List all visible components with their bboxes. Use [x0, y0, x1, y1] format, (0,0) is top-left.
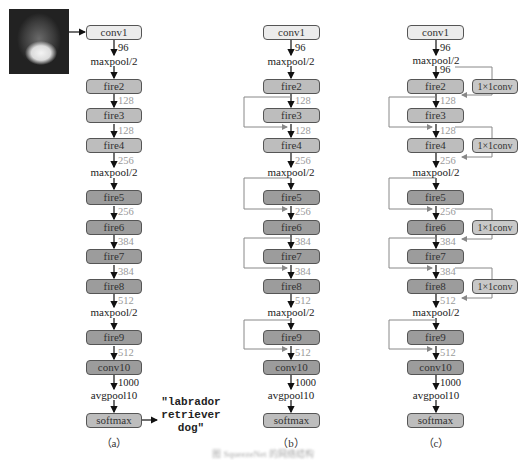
output-line: "labrador [155, 396, 227, 409]
edge-label: 128 [440, 125, 456, 136]
edge-label: 512 [295, 295, 311, 306]
fire4-node: fire4 [86, 138, 142, 153]
maxpool-label: maxpool/2 [412, 166, 459, 178]
edge-label: 128 [118, 125, 134, 136]
fire3-node: fire3 [86, 108, 142, 123]
fire5-node: fire5 [407, 190, 464, 205]
fire9-node: fire9 [86, 330, 142, 345]
maxpool-label: maxpool/2 [267, 166, 314, 178]
edge-label: 96 [440, 64, 451, 75]
fire5-node: fire5 [263, 190, 320, 205]
figure-caption: 图 SqueezeNet 的网络结构 [0, 447, 526, 460]
conv10-node: conv10 [407, 360, 464, 375]
avgpool-label: avgpool10 [91, 389, 137, 401]
fire2-node: fire2 [86, 79, 142, 94]
fire3-node: fire3 [407, 108, 464, 123]
edge-label: 96 [118, 42, 129, 53]
fire2-node: fire2 [263, 79, 320, 94]
fire6-node: fire6 [407, 220, 464, 235]
edge-label: 512 [118, 295, 134, 306]
edge-label: 128 [440, 95, 456, 106]
bypass-1x1conv-node: 1×1conv [472, 79, 518, 94]
edge-label: 256 [118, 206, 134, 217]
fire7-node: fire7 [263, 249, 320, 264]
conv10-node: conv10 [263, 360, 320, 375]
fire6-node: fire6 [86, 220, 142, 235]
fire4-node: fire4 [263, 138, 320, 153]
maxpool-label: maxpool/2 [90, 166, 137, 178]
bypass-1x1conv-node: 1×1conv [472, 138, 518, 153]
maxpool-label: maxpool/2 [90, 55, 137, 67]
edge-label: 128 [295, 95, 311, 106]
fire5-node: fire5 [86, 190, 142, 205]
maxpool-label: maxpool/2 [90, 306, 137, 318]
avgpool-label: avgpool10 [268, 389, 314, 401]
maxpool-label: maxpool/2 [267, 55, 314, 67]
fire7-node: fire7 [407, 249, 464, 264]
input-dog-image [9, 9, 69, 74]
fire3-node: fire3 [263, 108, 320, 123]
edge-label: 384 [118, 236, 134, 247]
edge-label: 384 [295, 266, 311, 277]
maxpool-label: maxpool/2 [412, 54, 459, 66]
conv10-node: conv10 [86, 360, 142, 375]
edge-label: 384 [295, 236, 311, 247]
edge-label: 128 [118, 95, 134, 106]
fire9-node: fire9 [407, 330, 464, 345]
edge-label: 384 [118, 266, 134, 277]
fire8-node: fire8 [86, 279, 142, 294]
fire8-node: fire8 [407, 279, 464, 294]
edge-label: 256 [295, 155, 311, 166]
maxpool-label: maxpool/2 [267, 306, 314, 318]
output-line: dog" [155, 422, 227, 435]
edge-label: 384 [440, 236, 456, 247]
edge-label: 128 [295, 125, 311, 136]
fire9-node: fire9 [263, 330, 320, 345]
fire4-node: fire4 [407, 138, 464, 153]
maxpool-label: maxpool/2 [412, 306, 459, 318]
output-line: retriever [155, 409, 227, 422]
fire6-node: fire6 [263, 220, 320, 235]
edge-label: 256 [295, 206, 311, 217]
fire8-node: fire8 [263, 279, 320, 294]
edge-label: 1000 [440, 377, 461, 388]
edge-label: 512 [118, 347, 134, 358]
fire7-node: fire7 [86, 249, 142, 264]
edge-label: 512 [440, 347, 456, 358]
edge-label: 96 [440, 42, 451, 53]
conv1-node: conv1 [263, 25, 320, 40]
edge-label: 256 [118, 155, 134, 166]
prediction-output: "labrador retriever dog" [155, 396, 227, 435]
edge-label: 512 [440, 295, 456, 306]
conv1-node: conv1 [407, 25, 464, 40]
softmax-node: softmax [407, 413, 464, 428]
edge-label: 1000 [118, 377, 139, 388]
fire2-node: fire2 [407, 79, 464, 94]
edge-label: 96 [295, 42, 306, 53]
edge-label: 1000 [295, 377, 316, 388]
edge-label: 384 [440, 266, 456, 277]
conv1-node: conv1 [86, 25, 142, 40]
softmax-node: softmax [86, 413, 142, 428]
bypass-1x1conv-node: 1×1conv [472, 279, 518, 294]
bypass-1x1conv-node: 1×1conv [472, 220, 518, 235]
edge-label: 256 [440, 155, 456, 166]
edge-label: 256 [440, 206, 456, 217]
avgpool-label: avgpool10 [413, 389, 459, 401]
edge-label: 512 [295, 347, 311, 358]
softmax-node: softmax [263, 413, 320, 428]
